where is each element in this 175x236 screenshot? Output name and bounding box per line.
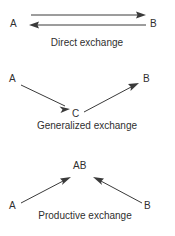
- arrow-productive-a-to-ab: [21, 177, 71, 203]
- node-label-productive-a: A: [9, 200, 16, 211]
- arrow-productive-b-to-ab: [93, 177, 142, 203]
- node-label-direct-b: B: [150, 18, 157, 29]
- arrow-productive-b-to-ab-head: [93, 177, 104, 185]
- arrow-direct-a-to-b: [31, 12, 146, 19]
- panel-direct-exchange: A B Direct exchange: [10, 12, 157, 49]
- node-label-general-b: B: [143, 73, 150, 84]
- arrow-general-c-to-b: [84, 83, 139, 112]
- node-label-productive-b: B: [144, 200, 151, 211]
- arrow-productive-a-to-ab-shaft: [21, 180, 65, 203]
- arrow-general-a-to-c-head: [60, 107, 71, 114]
- arrow-productive-a-to-ab-head: [60, 177, 71, 185]
- arrow-general-c-to-b-head: [128, 83, 139, 91]
- arrow-direct-b-to-a-head: [29, 22, 39, 29]
- exchange-diagram: A B Direct exchange A B C: [0, 0, 175, 236]
- caption-productive-exchange: Productive exchange: [38, 210, 132, 221]
- panel-productive-exchange: AB A B Productive exchange: [9, 160, 151, 221]
- arrow-general-c-to-b-shaft: [84, 86, 133, 112]
- arrow-general-a-to-c-shaft: [21, 85, 65, 106]
- arrow-direct-a-to-b-head: [136, 12, 146, 19]
- node-label-productive-ab: AB: [73, 160, 87, 171]
- panel-generalized-exchange: A B C Generalized exchange: [9, 73, 150, 131]
- node-label-general-a: A: [9, 73, 16, 84]
- caption-direct-exchange: Direct exchange: [51, 37, 124, 48]
- arrow-general-a-to-c: [21, 85, 70, 113]
- arrow-productive-b-to-ab-shaft: [99, 180, 142, 203]
- node-label-general-c: C: [72, 108, 79, 119]
- arrow-direct-b-to-a: [29, 22, 146, 29]
- caption-generalized-exchange: Generalized exchange: [37, 120, 138, 131]
- node-label-direct-a: A: [10, 18, 17, 29]
- exchange-diagram-canvas: A B Direct exchange A B C: [0, 0, 175, 236]
